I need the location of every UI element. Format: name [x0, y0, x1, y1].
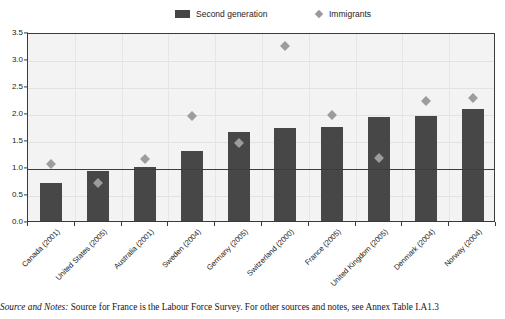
- data-point-marker: [187, 111, 197, 121]
- y-axis-tick-label: 1.5: [12, 137, 23, 145]
- gridline-vertical: [215, 34, 216, 221]
- gridline-horizontal: [28, 61, 494, 62]
- y-axis-tick-label: 0.5: [12, 191, 23, 199]
- x-axis-tick-label: Germany (2005): [205, 228, 249, 272]
- x-axis-tick-mark: [27, 222, 28, 226]
- x-axis-tick-label: Canada (2001): [21, 228, 62, 269]
- plot-inner: [28, 34, 494, 221]
- data-point-marker: [421, 96, 431, 106]
- gridline-vertical: [356, 34, 357, 221]
- reference-line: [28, 169, 494, 170]
- x-axis-tick-mark: [355, 222, 356, 226]
- diamond-marker-icon: [315, 10, 323, 18]
- y-axis-tick-label: 2.0: [12, 110, 23, 118]
- legend-item-immigrants: Immigrants: [315, 10, 371, 19]
- legend-label-immigrants: Immigrants: [329, 10, 371, 19]
- y-axis-tick-label: 1.0: [12, 164, 23, 172]
- gridline-vertical: [262, 34, 263, 221]
- gridline-vertical: [122, 34, 123, 221]
- x-axis-tick-mark: [121, 222, 122, 226]
- x-axis-tick-label: France (2005): [304, 228, 343, 267]
- x-axis-tick-mark: [167, 222, 168, 226]
- x-axis-tick-mark: [214, 222, 215, 226]
- gridline-vertical: [449, 34, 450, 221]
- x-axis-tick-mark: [261, 222, 262, 226]
- x-axis-tick-mark: [495, 222, 496, 226]
- legend-item-second-generation: Second generation: [175, 10, 267, 19]
- gridline-horizontal: [28, 88, 494, 89]
- chart-figure: Second generation Immigrants 0.00.51.01.…: [0, 0, 505, 319]
- gridline-vertical: [402, 34, 403, 221]
- x-axis-tick-label: Denmark (2004): [392, 228, 436, 272]
- source-notes-lead: Source and Notes:: [0, 302, 68, 312]
- source-and-notes: Source and Notes: Source for France is t…: [0, 302, 505, 313]
- x-axis-tick-mark: [448, 222, 449, 226]
- gridline-vertical: [75, 34, 76, 221]
- data-point-marker: [468, 93, 478, 103]
- y-axis-tick-label: 3.5: [12, 29, 23, 37]
- bar-swatch-icon: [175, 10, 190, 18]
- y-axis: 0.00.51.01.52.02.53.03.5: [0, 33, 27, 222]
- bar: [274, 128, 296, 221]
- gridline-vertical: [309, 34, 310, 221]
- source-notes-text: Source for France is the Labour Force Su…: [68, 302, 439, 312]
- x-axis-tick-mark: [308, 222, 309, 226]
- bar: [181, 151, 203, 221]
- y-axis-tick-label: 0.0: [12, 218, 23, 226]
- x-axis: Canada (2001)United States (2005)Austral…: [27, 222, 495, 296]
- x-axis-tick-mark: [74, 222, 75, 226]
- bar: [40, 183, 62, 221]
- x-axis-tick-label: Norway (2004): [443, 228, 483, 268]
- x-axis-tick-label: Australia (2001): [113, 228, 156, 271]
- data-point-marker: [327, 110, 337, 120]
- x-axis-tick-label: Switzerland (2000): [246, 228, 296, 278]
- plot-area: [27, 33, 495, 222]
- bar: [462, 109, 484, 221]
- data-point-marker: [140, 154, 150, 164]
- bar: [321, 127, 343, 221]
- y-axis-tick-label: 3.0: [12, 56, 23, 64]
- x-axis-tick-label: United States (2005): [55, 228, 109, 282]
- data-point-marker: [46, 159, 56, 169]
- x-axis-tick-mark: [401, 222, 402, 226]
- gridline-vertical: [168, 34, 169, 221]
- chart-legend: Second generation Immigrants: [0, 10, 505, 26]
- bar: [134, 167, 156, 221]
- data-point-marker: [280, 41, 290, 51]
- x-axis-tick-label: Sweden (2004): [161, 228, 202, 269]
- y-axis-tick-label: 2.5: [12, 83, 23, 91]
- legend-label-second-generation: Second generation: [196, 10, 267, 19]
